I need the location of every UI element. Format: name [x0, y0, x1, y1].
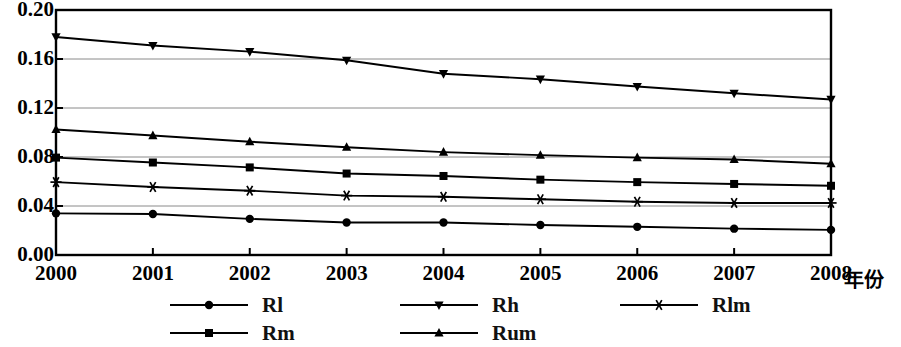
y-axis-tick-label: 0.20	[0, 0, 54, 22]
legend-marker-glyph	[205, 329, 213, 337]
x-axis-tick-label: 2002	[210, 261, 290, 286]
series-line-rm	[56, 158, 831, 186]
series-marker-rl	[246, 215, 254, 223]
legend-marker-glyph	[205, 301, 213, 309]
series-marker-rlm	[632, 197, 643, 207]
x-axis-tick-label: 2001	[113, 261, 193, 286]
series-marker-rm	[149, 159, 157, 167]
legend-label: Rum	[492, 323, 536, 343]
series-line-rlm	[56, 182, 831, 203]
legend-item-rh[interactable]: Rh	[398, 292, 519, 318]
legend-label: Rlm	[712, 295, 751, 315]
series-marker-rl	[439, 218, 447, 226]
y-axis-tick-label: 0.04	[0, 193, 54, 218]
series-line-rum	[56, 129, 831, 163]
legend-item-rum[interactable]: Rum	[398, 320, 536, 346]
series-line-rh	[56, 37, 831, 99]
legend-item-rl[interactable]: Rl	[168, 292, 283, 318]
series-marker-rlm	[341, 191, 352, 201]
series-marker-rm	[536, 176, 544, 184]
series-marker-rlm	[244, 186, 255, 196]
series-marker-rm	[343, 170, 351, 178]
legend-row: RlRhRlm	[168, 292, 728, 318]
legend-marker-circle	[168, 295, 250, 315]
series-marker-rl	[633, 223, 641, 231]
y-axis-tick-label: 0.12	[0, 95, 54, 120]
legend-row: RmRum	[168, 320, 728, 346]
y-axis-tick-label: 0.08	[0, 144, 54, 169]
series-marker-rlm	[535, 194, 546, 204]
series-marker-rlm	[438, 192, 449, 202]
x-axis-tick-label: 2004	[404, 261, 484, 286]
series-marker-rl	[342, 218, 350, 226]
legend-label: Rl	[262, 295, 283, 315]
series-marker-rl	[536, 221, 544, 229]
x-axis-tick-label: 2000	[16, 261, 96, 286]
legend-label: Rm	[262, 323, 295, 343]
legend-item-rlm[interactable]: Rlm	[618, 292, 751, 318]
x-axis-tick-label: 2005	[500, 261, 580, 286]
series-marker-rm	[440, 172, 448, 180]
data-series-group	[50, 33, 836, 234]
series-marker-rl	[730, 224, 738, 232]
x-axis-tick-label: 2006	[597, 261, 677, 286]
chart-legend: RlRhRlmRmRum	[168, 292, 728, 344]
legend-sample-svg	[168, 295, 250, 315]
legend-item-rm[interactable]: Rm	[168, 320, 295, 346]
legend-sample-svg	[618, 295, 700, 315]
legend-sample-svg	[168, 323, 250, 343]
series-marker-rm	[633, 178, 641, 186]
legend-marker-glyph	[653, 300, 664, 310]
series-marker-rlm	[147, 182, 158, 192]
y-axis-tick-label: 0.16	[0, 46, 54, 71]
legend-sample-svg	[398, 295, 480, 315]
line-chart-figure: 0.000.040.080.120.160.20 200020012002200…	[0, 0, 901, 347]
series-marker-rm	[827, 182, 835, 190]
x-axis-title: 年份	[844, 264, 884, 293]
x-axis-tick-label: 2003	[307, 261, 387, 286]
legend-sample-svg	[398, 323, 480, 343]
legend-marker-asterisk	[618, 295, 700, 315]
series-marker-rl	[827, 226, 835, 234]
series-marker-rl	[149, 210, 157, 218]
x-axis-tick-label: 2007	[694, 261, 774, 286]
legend-marker-triangle-down	[398, 295, 480, 315]
series-marker-rm	[730, 180, 738, 188]
legend-label: Rh	[492, 295, 519, 315]
legend-marker-triangle-up	[398, 323, 480, 343]
series-marker-rm	[246, 163, 254, 171]
legend-marker-square	[168, 323, 250, 343]
